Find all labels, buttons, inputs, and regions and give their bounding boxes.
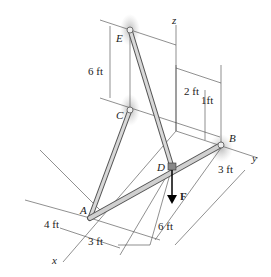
label-axis-z: z [171,14,177,26]
joint-c [127,107,133,113]
statics-diagram: E C D B A z y x F 6 ft 2 ft 1ft 3 ft 4 f… [0,0,271,277]
dim-d-to-b: 1ft [201,94,213,106]
joint-b [218,142,224,148]
label-point-b: B [229,132,236,144]
label-axis-y: y [251,152,257,164]
joint-d [168,163,176,170]
dim-b-offset: 3 ft [218,163,233,175]
dim-a-right: 3 ft [88,235,103,247]
dim-ce-height: 6 ft [88,65,103,77]
label-force: F [180,190,187,202]
dim-z-to-d: 2 ft [184,85,199,97]
dim-a-left: 4 ft [44,218,59,230]
members [90,30,221,218]
force-arrowhead-icon [167,195,177,204]
label-point-e: E [115,32,123,44]
label-point-a: A [79,204,87,216]
dim-ad-length: 6 ft [158,220,173,232]
label-point-c: C [116,109,124,121]
label-point-d: D [156,161,165,173]
label-axis-x: x [51,254,57,266]
joint-e [127,27,133,33]
